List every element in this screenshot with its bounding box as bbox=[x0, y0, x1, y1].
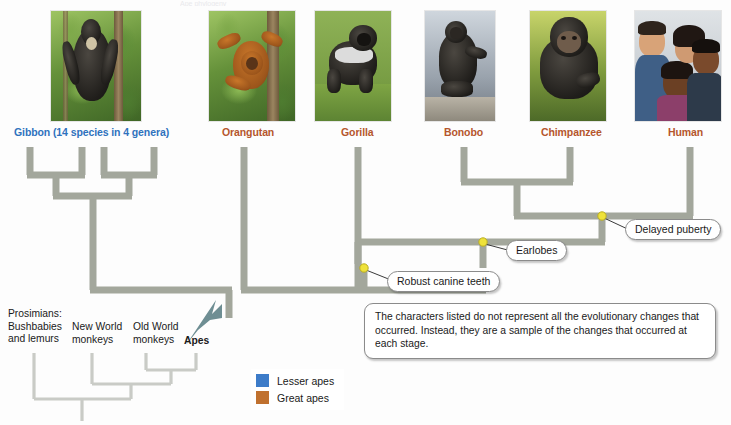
legend-label-lesser-apes: Lesser apes bbox=[277, 375, 334, 387]
legend-label-great-apes: Great apes bbox=[277, 392, 329, 404]
explanatory-note-box: The characters listed do not represent a… bbox=[364, 303, 716, 359]
inset-label-prosimians: Prosimians: Bushbabies and lemurs bbox=[8, 308, 62, 346]
node-dot-delayed-puberty bbox=[598, 212, 606, 220]
callout-robust-canine-teeth: Robust canine teeth bbox=[387, 271, 500, 292]
figure-canvas: Ape phylogeny bbox=[0, 0, 731, 425]
callout-label-delayed-puberty: Delayed puberty bbox=[635, 223, 711, 235]
explanatory-note-text: The characters listed do not represent a… bbox=[375, 311, 699, 349]
node-dot-earlobes bbox=[479, 238, 487, 246]
node-dot-robust-canine-teeth bbox=[360, 264, 368, 272]
legend: Lesser apes Great apes bbox=[251, 369, 344, 410]
legend-swatch-lesser-apes bbox=[256, 374, 269, 387]
legend-item-great-apes: Great apes bbox=[256, 389, 334, 406]
callout-label-earlobes: Earlobes bbox=[516, 244, 557, 256]
inset-label-new-world-monkeys: New World monkeys bbox=[72, 321, 122, 346]
legend-swatch-great-apes bbox=[256, 391, 269, 404]
callout-earlobes: Earlobes bbox=[506, 240, 567, 261]
callout-label-robust-canine-teeth: Robust canine teeth bbox=[397, 275, 490, 287]
inset-label-apes: Apes bbox=[184, 335, 209, 348]
legend-item-lesser-apes: Lesser apes bbox=[256, 372, 334, 389]
callout-delayed-puberty: Delayed puberty bbox=[625, 219, 721, 240]
inset-label-old-world-monkeys: Old World monkeys bbox=[133, 321, 179, 346]
phylogenetic-tree-graphic bbox=[0, 0, 731, 425]
